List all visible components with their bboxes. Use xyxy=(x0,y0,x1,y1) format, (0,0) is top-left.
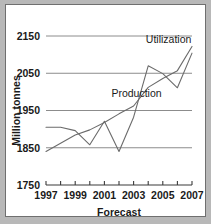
x-tick-label: 2007 xyxy=(180,189,204,201)
y-tick-label: 2150 xyxy=(17,30,41,42)
series-label-production: Production xyxy=(111,87,161,99)
y-axis-title: Million tonnes xyxy=(10,75,22,146)
series-label-utilization: Utilization xyxy=(146,33,192,45)
x-axis-tick-labels: 199719992001200320052007 xyxy=(34,189,204,201)
series-line xyxy=(46,53,192,151)
x-tick-label: 1999 xyxy=(64,189,88,201)
x-tick-label: 2005 xyxy=(151,189,175,201)
x-axis-tick-marks xyxy=(46,181,192,185)
figure-frame: 17501850195020502150 1997199920012003200… xyxy=(0,0,211,224)
line-chart: 17501850195020502150 1997199920012003200… xyxy=(6,5,205,216)
x-tick-label: 1997 xyxy=(34,189,58,201)
chart-panel: 17501850195020502150 1997199920012003200… xyxy=(5,4,206,217)
x-tick-label: 2003 xyxy=(122,189,146,201)
x-axis-title: Forecast xyxy=(97,206,141,216)
x-tick-label: 2001 xyxy=(93,189,117,201)
